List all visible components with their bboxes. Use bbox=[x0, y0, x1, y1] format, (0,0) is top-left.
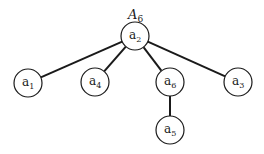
node-label-base: a bbox=[22, 75, 29, 89]
node-label-subscript: 6 bbox=[171, 81, 176, 90]
tree-title-main: A bbox=[127, 7, 137, 22]
node-label-subscript: 3 bbox=[239, 81, 244, 90]
nodes-group: a2a1a4a6a3a5 bbox=[14, 22, 252, 144]
node-a2: a2 bbox=[121, 22, 149, 50]
tree-title-subscript: 6 bbox=[137, 14, 143, 24]
edges-group bbox=[41, 42, 225, 116]
node-a6: a6 bbox=[156, 68, 184, 96]
node-label-subscript: 5 bbox=[171, 129, 176, 138]
node-label-subscript: 4 bbox=[96, 81, 101, 90]
node-a5: a5 bbox=[156, 116, 184, 144]
node-label-base: a bbox=[164, 74, 171, 88]
tree-diagram: a2a1a4a6a3a5 A6 bbox=[0, 0, 264, 154]
node-a4: a4 bbox=[81, 68, 109, 96]
edge-a2-a3 bbox=[148, 42, 225, 77]
tree-title-label: A6 bbox=[127, 7, 143, 24]
edge-a2-a1 bbox=[41, 42, 122, 78]
node-label-subscript: 2 bbox=[136, 35, 141, 44]
node-label-subscript: 1 bbox=[29, 82, 34, 91]
node-label-base: a bbox=[89, 74, 96, 88]
node-a3: a3 bbox=[224, 68, 252, 96]
node-label-base: a bbox=[129, 28, 136, 42]
node-label-base: a bbox=[232, 74, 239, 88]
node-label-base: a bbox=[164, 122, 171, 136]
edge-a2-a4 bbox=[104, 47, 126, 72]
node-a1: a1 bbox=[14, 69, 42, 97]
edge-a2-a6 bbox=[143, 47, 161, 71]
